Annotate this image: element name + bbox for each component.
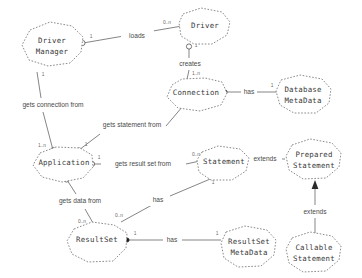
entity-result-set-metadata[interactable]: ResultSet MetaData (221, 226, 276, 267)
entity-prepared-statement[interactable]: Prepared Statement (286, 139, 341, 179)
result-set-metadata-label-line2: MetaData (230, 248, 267, 257)
gets-connection-to-cardinality: 1 (42, 72, 45, 77)
relationship-gets-statement-from: gets statement from 1 (76, 106, 183, 153)
callable-statement-label-line2: Statement (293, 254, 335, 263)
gets-result-set-from-cardinality: 1 (98, 155, 101, 160)
result-set-label-line1: ResultSet (76, 235, 118, 244)
statement-has-line-upper (170, 177, 215, 196)
creates-label: creates (179, 60, 201, 67)
entity-callable-statement[interactable]: Callable Statement (286, 232, 341, 272)
resultset-has-to-cardinality: 1 (216, 231, 219, 236)
statement-has-label: has (153, 196, 164, 203)
gets-data-line-lower (85, 209, 93, 223)
callable-statement-label-line1: Callable (295, 243, 333, 252)
relationship-statement-has-resultset: has 1 0..n (115, 174, 218, 222)
entity-driver[interactable]: Driver (179, 8, 230, 44)
entity-application[interactable]: Application (33, 147, 93, 182)
connection-has-to-cardinality: 1 (271, 83, 274, 88)
connection-label-line1: Connection (173, 88, 220, 97)
relationship-gets-connection-from: gets connection from 1..n 1 (8, 72, 100, 153)
entity-result-set[interactable]: ResultSet (67, 222, 127, 262)
entity-statement[interactable]: Statement (197, 146, 249, 180)
result-set-metadata-label-line1: ResultSet (228, 237, 270, 246)
prepared-statement-label-line1: Prepared (295, 150, 332, 159)
prepared-extends-label: extends (253, 155, 277, 162)
resultset-has-from-cardinality: 1 (134, 231, 137, 236)
statement-label-line1: Statement (203, 157, 245, 166)
relationship-gets-data-from: gets data from 1 0..n (47, 173, 113, 224)
gets-result-set-from-label: gets result set from (115, 160, 172, 168)
gets-statement-from-label: gets statement from (103, 121, 162, 129)
database-metadata-label-line2: MetaData (284, 96, 321, 105)
gets-statement-line-left (79, 134, 100, 150)
driver-manager-label-line1: Driver (38, 36, 66, 45)
entity-driver-manager[interactable]: Driver Manager (22, 22, 83, 66)
statement-has-from-cardinality: 1 (212, 180, 215, 185)
relationship-creates: creates 1 1..n (179, 43, 201, 84)
connection-has-label: has (244, 88, 255, 95)
gets-data-from-label: gets data from (59, 197, 102, 205)
driver-manager-label-line2: Manager (36, 47, 69, 56)
loads-from-cardinality: 1 (90, 34, 93, 39)
relationship-resultset-has-metadata: has 1 1 (125, 231, 221, 242)
gets-data-line-upper (67, 180, 76, 194)
result-set-metadata-shape (221, 226, 276, 267)
jdbc-relationship-diagram: loads 1 0..n creates 1 1..n has 1 (0, 0, 362, 278)
gets-statement-from-cardinality: 1 (85, 142, 88, 147)
gets-connection-from-cardinality: 1..n (38, 143, 46, 148)
statement-has-to-cardinality: 0..n (115, 213, 123, 218)
database-metadata-label-line1: Database (284, 85, 322, 94)
gets-statement-line-right (166, 106, 183, 126)
entity-database-metadata[interactable]: Database MetaData (276, 75, 331, 113)
relationship-connection-has-metadata: has 1 (223, 83, 277, 94)
relationship-loads: loads 1 0..n (80, 20, 182, 45)
driver-label-line1: Driver (191, 21, 219, 30)
gets-result-set-to-cardinality: 0..n (192, 152, 200, 157)
relationship-gets-result-set-from: gets result set from 1 0..n (89, 152, 200, 167)
relationship-callable-extends-prepared: extends (303, 180, 327, 235)
loads-label: loads (129, 32, 145, 39)
loads-to-cardinality: 0..n (163, 20, 171, 25)
application-label-line1: Application (38, 158, 89, 167)
gets-connection-line-upper (37, 72, 41, 98)
gets-connection-from-label: gets connection from (22, 101, 84, 109)
entity-connection[interactable]: Connection (167, 78, 227, 111)
callable-extends-label: extends (303, 208, 327, 215)
statement-has-line-lower (121, 205, 152, 222)
gets-data-to-cardinality: 0..n (78, 219, 86, 224)
callable-extends-arrowhead-icon (312, 180, 319, 189)
prepared-statement-label-line2: Statement (293, 161, 335, 170)
diagram-canvas: loads 1 0..n creates 1 1..n has 1 (0, 0, 362, 278)
creates-driver-endpoint (186, 44, 191, 49)
creates-to-cardinality: 1..n (192, 71, 200, 76)
resultset-has-label: has (167, 236, 178, 243)
